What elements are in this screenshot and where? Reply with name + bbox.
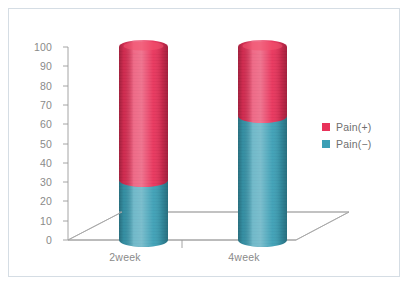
y-tick-label-80: 80 [26,81,52,91]
bar-segment-pain-negative-2week[interactable] [119,180,168,247]
legend-item-pain-positive[interactable]: Pain(+) [322,118,372,135]
legend-swatch-pain-positive [322,123,330,131]
legend-swatch-pain-negative [322,140,330,148]
y-tick-label-50: 50 [26,139,52,149]
y-tick-label-0: 0 [26,235,52,245]
bar-segment-pain-negative-4week[interactable] [238,116,287,247]
y-tick-label-10: 10 [26,216,52,226]
y-tick-label-60: 60 [26,119,52,129]
chart-legend: Pain(+) Pain(−) [322,118,372,152]
legend-label-pain-positive: Pain(+) [336,121,372,133]
legend-label-pain-negative: Pain(−) [336,138,372,150]
y-tick-label-90: 90 [26,61,52,71]
bar-top-cap-2week [119,40,168,54]
bar-group-2week[interactable] [119,40,168,247]
floor-plane [68,212,349,240]
bar-segment-pain-positive-2week[interactable] [119,47,168,187]
x-category-label-4week: 4week [209,251,279,263]
legend-item-pain-negative[interactable]: Pain(−) [322,135,372,152]
y-tick-label-40: 40 [26,158,52,168]
bar-top-cap-4week [238,40,287,54]
bar-group-4week[interactable] [238,40,287,247]
y-tick-label-30: 30 [26,177,52,187]
bar-segment-pain-positive-4week[interactable] [238,47,287,123]
x-category-label-2week: 2week [90,251,160,263]
y-tick-label-70: 70 [26,100,52,110]
y-tick-label-100: 100 [26,42,52,52]
y-tick-label-20: 20 [26,196,52,206]
